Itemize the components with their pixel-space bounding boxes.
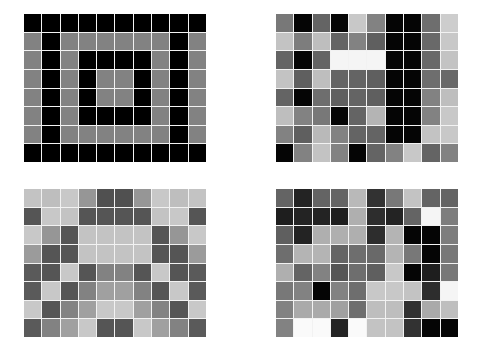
grid-cell (404, 33, 421, 51)
grid-cell (115, 301, 132, 319)
grid-cell (276, 319, 293, 337)
grid-cell (97, 33, 114, 51)
grid-cell (331, 126, 348, 144)
grid-cell (386, 14, 403, 32)
grid-cell (152, 33, 169, 51)
grid-cell (134, 189, 151, 207)
grid-cell (24, 245, 41, 263)
grid-cell (331, 189, 348, 207)
grid-cell (42, 144, 59, 162)
grid-cell (24, 208, 41, 226)
grid-cell (24, 14, 41, 32)
grid-cell (441, 208, 458, 226)
grid-cell (367, 126, 384, 144)
grid-cell (170, 33, 187, 51)
grid-cell (313, 107, 330, 125)
grid-cell (367, 189, 384, 207)
grid-cell (313, 282, 330, 300)
grid-cell (367, 70, 384, 88)
grid-cell (42, 70, 59, 88)
grid-cell (61, 107, 78, 125)
grid-cell (115, 189, 132, 207)
grid-cell (367, 319, 384, 337)
grid-cell (97, 226, 114, 244)
grid-cell (386, 282, 403, 300)
grid-cell (24, 282, 41, 300)
grid-cell (134, 226, 151, 244)
grid-cell (152, 107, 169, 125)
grid-cell (349, 301, 366, 319)
grid-cell (152, 189, 169, 207)
grid-cell (61, 189, 78, 207)
grid-cell (189, 189, 206, 207)
grid-cell (294, 14, 311, 32)
grid-cell (331, 226, 348, 244)
grid-cell (170, 70, 187, 88)
grid-cell (422, 70, 439, 88)
grid-cell (152, 14, 169, 32)
grid-cell (349, 51, 366, 69)
grid-cell (276, 144, 293, 162)
grid-cell (331, 144, 348, 162)
grid-top-right (276, 14, 458, 162)
grid-cell (422, 189, 439, 207)
grid-cell (349, 107, 366, 125)
grid-cell (404, 51, 421, 69)
grid-cell (24, 51, 41, 69)
grid-cell (276, 126, 293, 144)
grid-cell (170, 301, 187, 319)
grid-cell (61, 144, 78, 162)
grid-cell (294, 282, 311, 300)
grid-cell (42, 189, 59, 207)
grid-cell (404, 70, 421, 88)
grid-cell (134, 107, 151, 125)
grid-cell (134, 301, 151, 319)
grid-cell (294, 245, 311, 263)
grid-cell (189, 33, 206, 51)
grid-cell (134, 70, 151, 88)
grid-cell (61, 301, 78, 319)
grid-cell (331, 14, 348, 32)
grid-cell (170, 89, 187, 107)
grid-cell (79, 33, 96, 51)
grid-cell (24, 33, 41, 51)
grid-top-left (24, 14, 206, 162)
grid-cell (313, 208, 330, 226)
grid-cell (386, 245, 403, 263)
grid-cell (42, 208, 59, 226)
grid-cell (115, 33, 132, 51)
pattern-canvas (0, 0, 483, 339)
grid-cell (24, 264, 41, 282)
grid-cell (61, 226, 78, 244)
grid-cell (61, 51, 78, 69)
grid-cell (115, 208, 132, 226)
grid-cell (349, 89, 366, 107)
grid-cell (115, 70, 132, 88)
grid-cell (24, 89, 41, 107)
grid-cell (97, 208, 114, 226)
grid-cell (313, 264, 330, 282)
grid-cell (422, 144, 439, 162)
grid-cell (313, 33, 330, 51)
grid-cell (367, 14, 384, 32)
grid-cell (441, 70, 458, 88)
grid-cell (331, 319, 348, 337)
grid-cell (134, 33, 151, 51)
grid-cell (134, 89, 151, 107)
grid-cell (42, 264, 59, 282)
grid-cell (134, 14, 151, 32)
grid-cell (313, 70, 330, 88)
grid-cell (276, 33, 293, 51)
grid-cell (441, 126, 458, 144)
grid-cell (97, 107, 114, 125)
grid-cell (170, 208, 187, 226)
grid-cell (349, 189, 366, 207)
grid-cell (441, 51, 458, 69)
grid-cell (115, 89, 132, 107)
grid-cell (152, 89, 169, 107)
grid-cell (331, 245, 348, 263)
grid-cell (79, 301, 96, 319)
grid-cell (367, 51, 384, 69)
grid-cell (170, 226, 187, 244)
grid-cell (42, 107, 59, 125)
